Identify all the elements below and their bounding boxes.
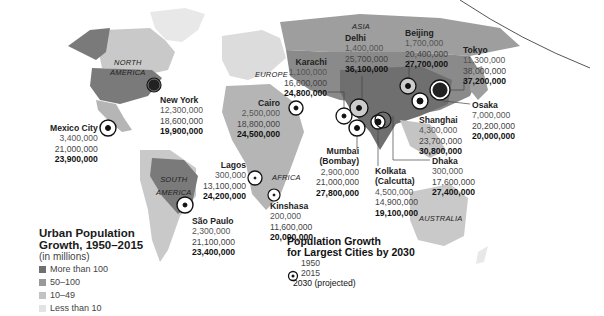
growth-legend-1950: 1950: [287, 258, 415, 268]
city-label-kolkata: Kolkata (Calcutta) 4,500,000 14,900,000 …: [375, 166, 418, 218]
legend-item-50-100: 50–100: [39, 276, 143, 289]
ring-beijing: [400, 78, 416, 94]
new-zealand: [476, 246, 488, 264]
ring-cairo: [289, 101, 303, 115]
legend-subtitle: (in millions): [39, 251, 143, 263]
city-label-beijing: Beijing 1,700,000 20,400,000 27,700,000: [405, 28, 448, 70]
growth-rings-legend: Population Growthfor Largest Cities by 2…: [287, 236, 415, 288]
continent-south-america: SOUTH AMERICA: [156, 173, 192, 199]
ring-mumbai: [349, 120, 365, 136]
city-name: Delhi: [345, 33, 388, 43]
pop-2030: 23,900,000: [50, 154, 98, 164]
legend-title-line2: Growth, 1950–2015: [39, 239, 143, 251]
continent-label: NORTH: [114, 58, 142, 67]
pop-2015: 23,700,000: [419, 136, 462, 146]
continent-africa: AFRICA: [272, 173, 301, 182]
city-name: Karachi: [284, 57, 327, 67]
pop-2015: 38,000,000: [463, 66, 506, 76]
pop-1950: 2,300,000: [192, 226, 235, 236]
pop-2030: 24,200,000: [203, 191, 246, 201]
city-label-karachi: Karachi 1,100,000 16,600,000 24,800,000: [284, 57, 327, 99]
legend-title-line1: Urban Population: [39, 227, 135, 239]
pop-1950: 7,000,000: [472, 110, 515, 120]
city-name: Beijing: [405, 28, 448, 38]
pop-2030: 24,800,000: [284, 88, 327, 98]
pop-1950: 4,500,000: [375, 187, 418, 197]
continent-label: SOUTH: [160, 175, 187, 184]
city-name-alt: (Bombay): [316, 156, 359, 166]
pop-2015: 21,000,000: [50, 144, 98, 154]
city-label-mexico-city: Mexico City 3,400,000 21,000,000 23,900,…: [50, 123, 98, 165]
pop-2030: 37,200,000: [463, 76, 506, 86]
ring-lagos: [248, 171, 262, 185]
city-label-mumbai: Mumbai (Bombay) 2,900,000 21,000,000 27,…: [316, 146, 359, 198]
pop-2030: 36,100,000: [345, 64, 388, 74]
pop-2030: 19,100,000: [375, 208, 418, 218]
legend-label: 10–49: [50, 289, 75, 302]
legend-item-less-than-10: Less than 10: [39, 302, 143, 315]
legend-item-more-than-100: More than 100: [39, 263, 143, 276]
city-name: São Paulo: [192, 216, 235, 226]
ring-delhi: [350, 99, 368, 117]
urban-growth-legend: Urban PopulationGrowth, 1950–2015 (in mi…: [39, 227, 143, 315]
pop-1950: 3,400,000: [50, 133, 98, 143]
pop-2015: 21,100,000: [192, 237, 235, 247]
pop-2015: 20,200,000: [472, 121, 515, 131]
pop-1950: 1,700,000: [405, 38, 448, 48]
pop-2015: 14,900,000: [375, 197, 418, 207]
pop-2030: 27,800,000: [316, 188, 359, 198]
pop-2015: 18,800,000: [237, 119, 280, 129]
continent-north-america: NORTH AMERICA: [110, 58, 146, 78]
pop-2015: 25,700,000: [345, 54, 388, 64]
city-name: Lagos: [203, 160, 246, 170]
pop-2030: 30,800,000: [419, 146, 462, 156]
pop-1950: 200,000: [270, 211, 313, 221]
legend-label: More than 100: [50, 263, 108, 276]
pop-1950: 300,000: [432, 166, 475, 176]
continent-label: AMERICA: [156, 188, 192, 197]
pop-2030: 27,400,000: [432, 187, 475, 197]
ring-shanghai: [412, 93, 428, 109]
city-label-lagos: Lagos 300,000 13,100,000 24,200,000: [203, 160, 246, 202]
pop-1950: 12,300,000: [160, 105, 203, 115]
pop-1950: 2,500,000: [237, 108, 280, 118]
swatch-icon: [39, 292, 46, 299]
city-label-shanghai: Shanghai 4,300,000 23,700,000 30,800,000: [419, 115, 462, 157]
swatch-icon: [39, 279, 46, 286]
continent-label: AMERICA: [110, 68, 146, 77]
ring-kinshasa: [268, 189, 280, 201]
city-label-sao-paulo: São Paulo 2,300,000 21,100,000 23,400,00…: [192, 216, 235, 258]
city-label-tokyo: Tokyo 11,300,000 38,000,000 37,200,000: [463, 45, 506, 87]
growth-legend-2030: 2030 (projected): [287, 278, 415, 288]
city-label-dhaka: Dhaka 300,000 17,600,000 27,400,000: [432, 156, 475, 198]
pop-1950: 11,300,000: [463, 55, 506, 65]
city-name: Kolkata: [375, 166, 418, 176]
continent-asia: ASIA: [352, 22, 370, 31]
city-name: Mexico City: [50, 123, 98, 133]
pop-2015: 16,600,000: [284, 78, 327, 88]
ring-tokyo: [430, 80, 450, 100]
pop-2030: 20,000,000: [472, 131, 515, 141]
city-name: Tokyo: [463, 45, 506, 55]
pop-2015: 20,400,000: [405, 49, 448, 59]
city-name: Dhaka: [432, 156, 475, 166]
pop-1950: 4,300,000: [419, 125, 462, 135]
pop-1950: 2,900,000: [316, 167, 359, 177]
pop-2015: 11,600,000: [270, 222, 313, 232]
pop-2015: 21,000,000: [316, 177, 359, 187]
ring-new-york: [147, 78, 161, 92]
city-label-new-york: New York 12,300,000 18,600,000 19,900,00…: [160, 95, 203, 137]
city-name: New York: [160, 95, 203, 105]
city-name: Osaka: [472, 100, 515, 110]
pop-2015: 17,600,000: [432, 177, 475, 187]
legend-item-10-49: 10–49: [39, 289, 143, 302]
city-name: Shanghai: [419, 115, 462, 125]
growth-legend-title: Population Growthfor Largest Cities by 2…: [287, 236, 415, 258]
continent-europe: EUROPE: [255, 70, 288, 79]
city-name: Cairo: [237, 98, 280, 108]
pop-2015: 13,100,000: [203, 181, 246, 191]
city-name: Kinshasa: [270, 201, 313, 211]
pop-2015: 18,600,000: [160, 116, 203, 126]
city-name-alt: (Calcutta): [375, 176, 418, 186]
pop-2030: 23,400,000: [192, 247, 235, 257]
